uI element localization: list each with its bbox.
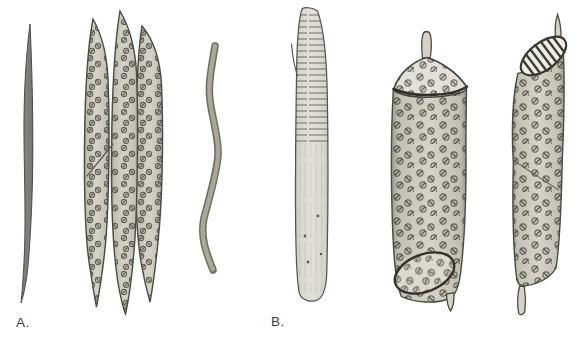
botanical-illustration bbox=[0, 0, 580, 342]
elongate-striated-vessel-illustration bbox=[292, 8, 329, 301]
panel-label-b: B. bbox=[271, 314, 285, 329]
top-tail-appendage bbox=[555, 15, 561, 40]
spindle-fiber-illustration bbox=[21, 24, 33, 303]
panel-label-a: A. bbox=[16, 315, 30, 330]
barrel-vessel-element-illustration bbox=[389, 32, 467, 312]
tracheid-middle bbox=[111, 11, 137, 314]
wavy-pitted-fiber-illustration bbox=[203, 46, 218, 270]
top-perforation-face bbox=[394, 58, 468, 98]
tracheid-right bbox=[135, 26, 162, 302]
top-tail-appendage bbox=[422, 32, 432, 59]
scalariform-vessel-element-illustration bbox=[512, 15, 572, 315]
tracheid-left bbox=[84, 19, 109, 307]
bottom-tail-appendage bbox=[447, 293, 454, 312]
tracheid-bundle-illustration bbox=[84, 11, 162, 314]
bottom-tail-appendage bbox=[518, 286, 526, 315]
figure-canvas: A. B. bbox=[0, 0, 580, 342]
